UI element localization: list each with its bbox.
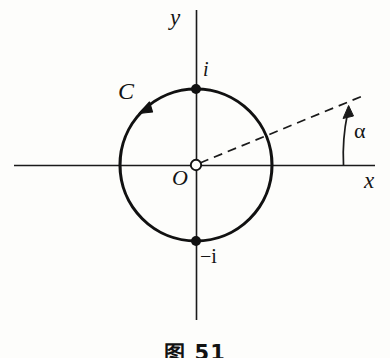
y-axis-label: y (170, 6, 180, 29)
dashed-angle-ray (200, 95, 365, 163)
figure-51-diagram: y x i −i O C α 图 51 (0, 0, 390, 358)
point-marker-origin (191, 160, 201, 170)
diagram-canvas (0, 0, 390, 358)
contour-label-c: C (118, 79, 134, 103)
angle-label-alpha: α (354, 120, 366, 142)
angle-alpha-arc (343, 106, 354, 166)
contour-direction-arrowhead (139, 102, 153, 114)
point-label-minus-i: −i (200, 246, 217, 266)
figure-caption: 图 51 (0, 336, 390, 358)
point-label-i: i (203, 59, 209, 79)
point-marker-i (191, 84, 201, 94)
x-axis-label: x (364, 169, 374, 192)
origin-label: O (172, 167, 188, 189)
